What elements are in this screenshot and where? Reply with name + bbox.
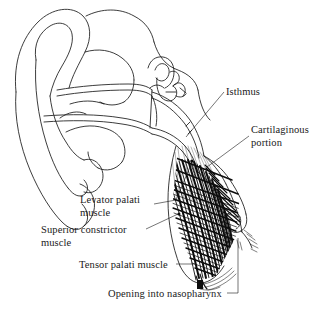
- head-contour: [66, 10, 210, 170]
- label-levator-line2: muscle: [80, 207, 140, 220]
- label-cartilaginous-portion: Cartilaginous portion: [251, 124, 309, 149]
- anatomy-figure: Isthmus Cartilaginous portion Levator pa…: [0, 0, 327, 313]
- leader-isthmus: [186, 92, 224, 137]
- label-levator-palati-muscle: Levator palati muscle: [80, 194, 140, 219]
- concha-detail: [60, 112, 103, 193]
- eustachian-tube: [152, 92, 204, 176]
- label-superior-constrictor-muscle: Superior constrictor muscle: [41, 224, 127, 249]
- label-levator-line1: Levator palati: [80, 194, 140, 205]
- label-isthmus: Isthmus: [226, 86, 260, 99]
- cartilage-hook-hatching: [237, 230, 258, 252]
- label-superior-line1: Superior constrictor: [41, 224, 127, 235]
- leader-cartilaginous: [207, 136, 249, 167]
- label-cartilaginous-line1: Cartilaginous: [251, 124, 309, 135]
- label-tensor-palati-muscle: Tensor palati muscle: [79, 259, 168, 272]
- label-cartilaginous-line2: portion: [251, 137, 309, 150]
- label-superior-line2: muscle: [41, 237, 127, 250]
- label-opening-into-nasopharynx: Opening into nasopharynx: [108, 288, 222, 301]
- leader-superior: [146, 214, 178, 229]
- tympanic-membrane: [150, 90, 157, 128]
